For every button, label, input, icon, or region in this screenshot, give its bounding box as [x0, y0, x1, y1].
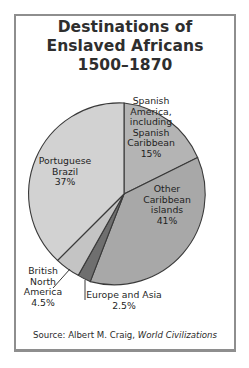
bottom-rule	[16, 349, 234, 351]
slice-label-spanish-america: Spanish America, including Spanish Carib…	[114, 96, 188, 160]
spanish-america-value: 15%	[114, 149, 188, 160]
figure-title: Destinations of Enslaved Africans 1500–1…	[16, 18, 234, 75]
slice-label-portuguese-brazil: Portuguese Brazil 37%	[22, 156, 108, 188]
pie-chart-figure: Destinations of Enslaved Africans 1500–1…	[0, 0, 249, 368]
title-line-3: 1500–1870	[16, 56, 234, 75]
pie-chart: Spanish America, including Spanish Carib…	[16, 84, 234, 324]
slice-label-europe-asia: Europe and Asia 2.5%	[76, 290, 172, 311]
portuguese-brazil-value: 37%	[22, 177, 108, 188]
europe-asia-line-1: Europe and Asia	[76, 290, 172, 301]
other-caribbean-value: 41%	[130, 216, 204, 227]
source-work-title: World Civilizations	[138, 330, 217, 340]
title-line-2: Enslaved Africans	[16, 37, 234, 56]
source-citation: Source: Albert M. Craig, World Civilizat…	[16, 330, 234, 340]
british-north-america-line-1: British	[12, 266, 74, 277]
source-prefix: Source: Albert M. Craig,	[33, 330, 138, 340]
portuguese-brazil-line-1: Portuguese	[22, 156, 108, 167]
title-line-1: Destinations of	[16, 18, 234, 37]
europe-asia-value: 2.5%	[76, 301, 172, 312]
spanish-america-line-1: Spanish	[114, 96, 188, 107]
slice-label-other-caribbean: Other Caribbean islands 41%	[130, 184, 204, 226]
slice-label-british-north-america: British North America 4.5%	[12, 266, 74, 308]
other-caribbean-line-1: Other	[130, 184, 204, 195]
british-north-america-value: 4.5%	[12, 298, 74, 309]
